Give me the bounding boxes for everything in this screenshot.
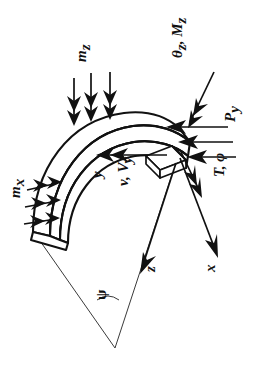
label-mz: mz: [73, 44, 93, 62]
svg-text:mz: mz: [73, 44, 93, 62]
label-v-Vy-sub: y: [119, 157, 135, 166]
label-x-axis: x: [202, 264, 218, 273]
curved-beam-diagram: mz mx θz, Mz Py T, φ y: [0, 0, 262, 375]
label-mx-base: m: [7, 186, 23, 198]
label-mx: mx: [7, 178, 27, 198]
moment-thetaz-Mz-arrow: [188, 72, 214, 128]
label-psi-text: ψ: [93, 289, 109, 300]
label-Py-sub: y: [226, 106, 242, 115]
label-x-text: x: [202, 264, 218, 273]
distributed-load-mz-arrows: [67, 72, 117, 126]
z-axis-shaft: [142, 163, 176, 268]
label-Py: Py: [222, 106, 242, 122]
label-mz-base: m: [73, 50, 89, 62]
label-y-axis: y: [89, 171, 105, 180]
axis-z-arrow: [140, 163, 176, 274]
label-T-phi: T, φ: [211, 153, 227, 177]
label-T-phi-text: T, φ: [211, 153, 227, 177]
label-mx-sub: x: [11, 178, 27, 187]
label-Mz-mid: , M: [169, 23, 185, 46]
label-thetaz-Mz: θz, Mz: [169, 18, 189, 58]
label-Mz-sub: z: [173, 18, 189, 25]
svg-text:mx: mx: [7, 178, 27, 198]
label-y-text: y: [89, 171, 105, 180]
label-z-axis: z: [142, 266, 158, 273]
x-head: [205, 234, 218, 258]
label-z-text: z: [142, 266, 158, 273]
svg-text:θz, Mz: θz, Mz: [169, 18, 189, 58]
label-mz-sub: z: [77, 44, 93, 51]
label-psi-angle: ψ: [93, 289, 109, 300]
figure-root: mz mx θz, Mz Py T, φ y: [0, 0, 262, 375]
svg-text:Py: Py: [222, 106, 242, 122]
label-theta-sym: θ: [169, 50, 185, 58]
